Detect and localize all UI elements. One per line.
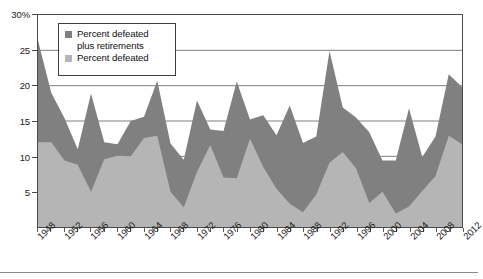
legend-item-defeated-plus-retirements: Percent defeated plus retirements bbox=[65, 28, 169, 51]
legend-swatch-dark bbox=[65, 31, 72, 38]
y-tick-label: 10 bbox=[20, 151, 30, 162]
legend-label-line1: Percent defeated bbox=[77, 28, 148, 39]
footer-divider bbox=[0, 272, 478, 273]
y-tick-label: 15 bbox=[20, 116, 30, 127]
legend-label-defeated: Percent defeated bbox=[77, 52, 148, 64]
x-tick-label: 2012 bbox=[461, 220, 483, 242]
legend-label-line2: plus retirements bbox=[77, 40, 148, 52]
legend-label-defeated-plus-retirements: Percent defeated plus retirements bbox=[77, 28, 148, 51]
legend-item-defeated: Percent defeated bbox=[65, 52, 169, 64]
y-tick-label: 30% bbox=[11, 9, 30, 20]
y-axis: 51015202530% bbox=[0, 0, 37, 242]
y-tick-label: 5 bbox=[25, 187, 30, 198]
y-tick-label: 20 bbox=[20, 80, 30, 91]
legend-swatch-light bbox=[65, 55, 72, 62]
chart-legend: Percent defeated plus retirements Percen… bbox=[58, 23, 176, 76]
y-tick-label: 25 bbox=[20, 44, 30, 55]
